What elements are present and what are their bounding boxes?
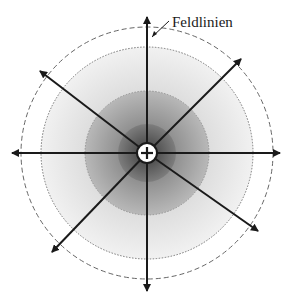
label-pointer-arrowhead [152, 31, 157, 37]
electric-field-diagram: Feldlinien [0, 0, 289, 296]
field-lines-label: Feldlinien [172, 14, 233, 30]
